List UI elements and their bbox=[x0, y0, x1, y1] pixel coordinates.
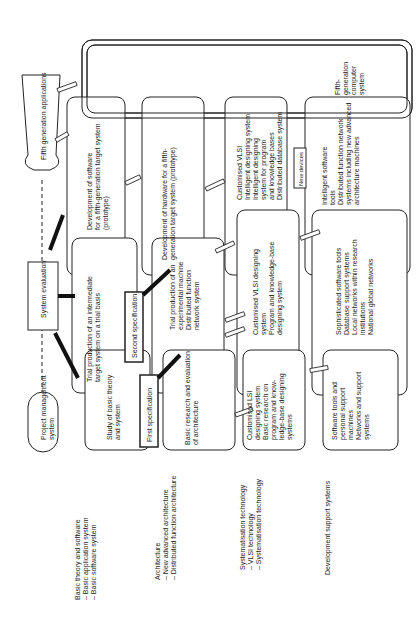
second-specification-label: Second specification bbox=[131, 294, 139, 358]
row-label-support: Development support systems bbox=[324, 480, 332, 575]
fifth-gen-applications-label: Fifth generation applications bbox=[40, 72, 48, 160]
row-label-architecture: Architecture– New advanced architecture–… bbox=[154, 476, 177, 580]
system-evaluation-label: System evaluation bbox=[40, 261, 48, 318]
row-label-systemisation: Systematisation technology– VLSI technol… bbox=[239, 478, 263, 570]
stage1-architecture-box bbox=[163, 350, 235, 450]
eval-to-stage3-arrow bbox=[50, 215, 63, 250]
new-devices-label: New devices bbox=[298, 152, 304, 186]
hollow-arrow-icon bbox=[205, 179, 225, 191]
first-specification-label: First specification bbox=[146, 388, 154, 442]
row-label-basic: Basic theory and software– Basic applica… bbox=[74, 517, 98, 600]
hollow-arrow-icon bbox=[125, 175, 141, 185]
stage3-architecture-text: Development of hardware for a fifth-gene… bbox=[161, 147, 177, 260]
fifth-generation-project-diagram: Project managementsystem System evaluati… bbox=[0, 0, 418, 617]
